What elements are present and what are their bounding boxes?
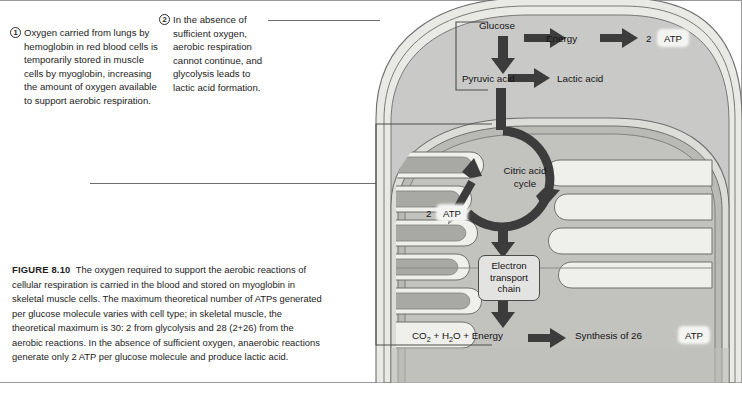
etc-line-3: chain — [498, 283, 521, 294]
annotation-1-number: 1 — [10, 27, 21, 38]
label-synthesis: Synthesis of 26 — [575, 330, 642, 342]
label-citric-acid-cycle: Citric acid cycle — [490, 164, 560, 190]
label-citric-acid-cycle-line1: Citric acid — [503, 165, 546, 176]
label-h2o: H — [442, 330, 449, 341]
label-energy-aerobic: Energy — [472, 330, 503, 341]
annotation-2-number: 2 — [159, 14, 170, 25]
figure-caption: FIGURE 8.10 The oxygen required to suppo… — [12, 263, 326, 365]
label-atp-cycle-count: 2 — [426, 208, 431, 220]
label-h2o-tail: O — [453, 330, 461, 341]
figure-caption-text: The oxygen required to support the aerob… — [12, 264, 322, 362]
atp-badge-cycle: ATP — [438, 206, 466, 220]
label-citric-acid-cycle-line2: cycle — [514, 178, 536, 189]
electron-transport-chain-box: Electron transport chain — [478, 255, 540, 301]
cell-diagram-artwork — [292, 0, 742, 383]
atp-badge-synthesis: ATP — [680, 328, 708, 342]
atp-badge-glycolysis: ATP — [659, 31, 687, 45]
annotation-2: 2 In the absence of sufficient oxygen, a… — [159, 13, 269, 95]
annotation-1: 1 Oxygen carried from lungs by hemoglobi… — [10, 26, 160, 108]
label-energy-glycolysis: Energy — [546, 33, 577, 45]
label-plus-2: + — [463, 330, 469, 341]
etc-line-2: transport — [490, 272, 528, 283]
etc-line-1: Electron — [491, 260, 526, 271]
label-co2: CO — [412, 330, 427, 341]
label-co2-subscript: 2 — [427, 335, 431, 344]
label-glucose: Glucose — [479, 20, 515, 32]
annotation-2-text: In the absence of sufficient oxygen, aer… — [173, 13, 269, 95]
figure-page: 1 Oxygen carried from lungs by hemoglobi… — [0, 0, 742, 403]
label-pyruvic-acid: Pyruvic acid — [462, 73, 515, 85]
label-lactic-acid: Lactic acid — [557, 73, 603, 85]
label-plus-1: + — [433, 330, 439, 341]
label-atp-glycolysis-count: 2 — [646, 33, 651, 45]
label-products: CO2 + H2O + Energy — [412, 330, 503, 346]
annotation-1-text: Oxygen carried from lungs by hemoglobin … — [24, 26, 160, 108]
figure-label: FIGURE 8.10 — [12, 264, 70, 275]
